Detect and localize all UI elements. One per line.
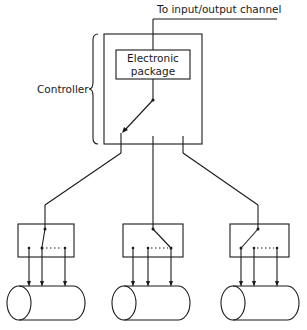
disk-drum-icon [221,286,299,320]
disk-drum-icon [7,286,85,320]
device-center [112,224,190,320]
controller-label: Controller [37,83,89,95]
device-left [7,224,85,320]
device-right [221,224,299,320]
svg-text:package: package [131,65,175,77]
electronic-package: Electronic package [116,50,190,79]
svg-text:Electronic: Electronic [127,52,179,64]
controller-brace [89,34,98,144]
disk-drum-icon [112,286,190,320]
controller-outputs [45,133,258,229]
io-channel-label: To input/output channel [156,3,281,15]
controller-diagram: To input/output channel Controller Elect… [0,0,307,330]
controller-switch [122,79,155,133]
